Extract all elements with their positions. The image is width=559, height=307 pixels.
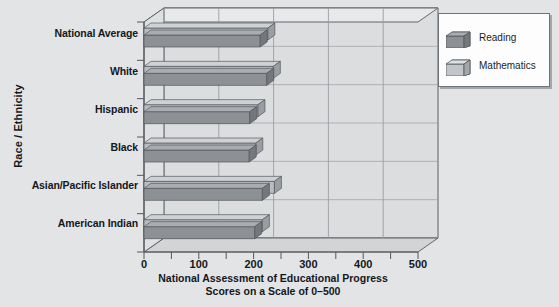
x-axis-tick-label: 0 xyxy=(141,258,147,270)
bar-reading xyxy=(144,145,256,162)
legend-swatch-mathematics xyxy=(446,55,472,76)
legend-swatch-reading xyxy=(446,27,472,48)
legend-item-reading[interactable]: Reading xyxy=(439,23,549,51)
x-axis-tick-label: 300 xyxy=(299,258,317,270)
chart-container: Race / Ethnicity National Average White … xyxy=(0,0,559,307)
bar-reading xyxy=(144,68,274,85)
bar-reading xyxy=(144,222,262,239)
x-axis-tick-label: 100 xyxy=(190,258,208,270)
x-axis-tick-label: 200 xyxy=(244,258,262,270)
legend-item-mathematics[interactable]: Mathematics xyxy=(439,51,549,79)
plot-floor xyxy=(144,238,438,252)
x-axis-tick-label: 400 xyxy=(354,258,372,270)
x-axis-title-line-1: National Assessment of Educational Progr… xyxy=(118,272,428,285)
legend: Reading Mathematics xyxy=(438,13,550,87)
x-axis-title-line-2: Scores on a Scale of 0–500 xyxy=(118,285,428,298)
bar-reading xyxy=(144,183,269,200)
legend-label-mathematics: Mathematics xyxy=(479,60,536,71)
bar-reading xyxy=(144,30,267,47)
x-axis-tick-label: 500 xyxy=(409,258,427,270)
bar-reading xyxy=(144,107,257,124)
legend-label-reading: Reading xyxy=(479,32,516,43)
x-axis-title: National Assessment of Educational Progr… xyxy=(118,272,428,298)
plot-ceiling xyxy=(144,8,438,22)
